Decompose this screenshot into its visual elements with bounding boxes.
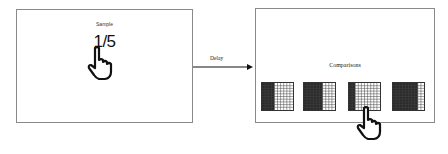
delay-label: Delay bbox=[210, 55, 223, 61]
comparisons-title: Comparisons bbox=[256, 62, 434, 68]
sample-title: Sample bbox=[17, 21, 192, 27]
arrow-icon bbox=[193, 63, 253, 71]
hand-pointer-icon bbox=[355, 105, 385, 141]
comparison-grid-2[interactable] bbox=[303, 82, 336, 111]
hand-pointer-icon bbox=[86, 45, 116, 81]
comparison-grid-4[interactable] bbox=[392, 82, 425, 111]
comparison-grid-1[interactable] bbox=[261, 82, 294, 111]
comparison-panel: Comparisons bbox=[255, 8, 435, 123]
